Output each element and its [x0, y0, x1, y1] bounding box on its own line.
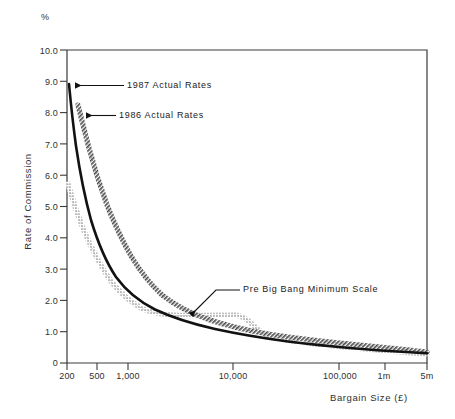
annotation-prebigbang-leader — [191, 290, 240, 315]
chart-svg — [0, 0, 455, 419]
series-1987-actual-rates — [69, 84, 427, 353]
commission-rate-chart: % Rate of Commission Bargain Size (£) 0 … — [0, 0, 455, 419]
y-axis-ticks — [60, 50, 67, 363]
series-1986-actual-rates — [78, 105, 427, 352]
x-axis-ticks — [67, 363, 427, 370]
annotation-leaders — [75, 86, 240, 316]
plot-frame — [67, 50, 427, 363]
